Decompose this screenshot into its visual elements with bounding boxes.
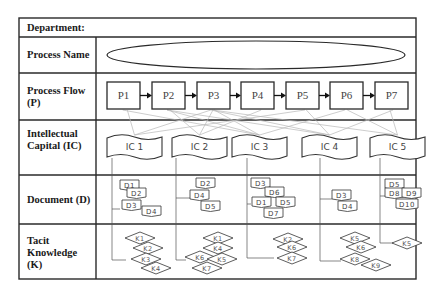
- document-label: D5: [280, 199, 291, 207]
- process-box-p2[interactable]: P2: [152, 82, 185, 109]
- document-d7[interactable]: D7: [264, 208, 283, 219]
- flow-arrow: [274, 93, 286, 99]
- knowledge-k6[interactable]: K6: [346, 241, 376, 253]
- document-d2[interactable]: D2: [127, 188, 146, 199]
- document-label: D6: [269, 189, 280, 197]
- document-label: D5: [389, 181, 400, 189]
- knowledge-k2[interactable]: K2: [133, 242, 163, 254]
- document-label: D3: [255, 180, 266, 188]
- document-label: D2: [200, 180, 211, 188]
- document-d8[interactable]: D8: [385, 188, 404, 199]
- document-label: D4: [342, 203, 353, 211]
- document-d3[interactable]: D3: [122, 200, 141, 211]
- document-d5[interactable]: D5: [276, 197, 295, 208]
- intellectual-capital-row: IC 1IC 2IC 3IC 4IC 5: [107, 135, 425, 160]
- process-box-p4[interactable]: P4: [241, 82, 274, 109]
- ic-label: IC 3: [251, 142, 269, 152]
- document-d10[interactable]: D10: [396, 199, 418, 210]
- knowledge-label: K6: [287, 244, 296, 252]
- document-d3[interactable]: D3: [332, 190, 351, 201]
- ic-label: IC 1: [126, 142, 144, 152]
- ic-ic1[interactable]: IC 1: [107, 135, 162, 160]
- process-name-field[interactable]: [107, 41, 405, 69]
- document-label: D3: [126, 202, 137, 210]
- knowledge-k7[interactable]: K7: [277, 252, 307, 264]
- knowledge-label: K5: [350, 235, 359, 243]
- process-box-p6[interactable]: P6: [330, 82, 363, 109]
- ic-process-link: [211, 110, 330, 135]
- knowledge-k5[interactable]: K5: [392, 237, 422, 249]
- process-label: P6: [341, 89, 353, 101]
- ic-ic4[interactable]: IC 4: [302, 135, 357, 160]
- knowledge-label: K5: [402, 240, 411, 248]
- process-label: P5: [297, 89, 309, 101]
- ic-ic3[interactable]: IC 3: [232, 135, 287, 160]
- process-label: P2: [163, 89, 175, 101]
- document-d4[interactable]: D4: [338, 201, 357, 212]
- document-label: D9: [406, 190, 417, 198]
- ic-process-links: [123, 110, 398, 135]
- knowledge-k4[interactable]: K4: [203, 242, 233, 254]
- knowledge-label: K7: [202, 265, 211, 273]
- ic-process-link: [200, 110, 213, 135]
- knowledge-label: K4: [213, 245, 222, 253]
- ic-process-link: [347, 110, 397, 135]
- document-d6[interactable]: D6: [265, 187, 284, 198]
- ic-process-link: [200, 110, 262, 135]
- flow-arrow: [363, 93, 375, 99]
- row-label-process-flow: Process Flow (P): [27, 85, 85, 109]
- ic-ic5[interactable]: IC 5: [370, 135, 425, 160]
- knowledge-k6[interactable]: K6: [185, 251, 215, 263]
- process-box-p5[interactable]: P5: [286, 82, 319, 109]
- knowledge-label: K7: [287, 255, 296, 263]
- ic-label: IC 5: [389, 142, 407, 152]
- flow-arrow: [319, 93, 330, 99]
- row-label-tacit-knowledge: Tacit Knowledge (K): [27, 235, 77, 271]
- tacit-knowledge-row: K1K2K3K4K1K4K6K5K7K2K6K7K5K6K8K9K5: [112, 232, 422, 274]
- document-d2[interactable]: D2: [196, 178, 215, 189]
- document-d1[interactable]: D1: [252, 197, 271, 208]
- document-label: D7: [268, 210, 279, 218]
- document-label: D8: [389, 190, 400, 198]
- document-row: D1D2D3D4D2D4D5D3D6D1D5D7D3D4D5D8D9D10: [112, 158, 421, 261]
- document-d9[interactable]: D9: [402, 188, 421, 199]
- flow-arrow: [185, 93, 197, 99]
- process-box-p3[interactable]: P3: [197, 82, 230, 109]
- knowledge-label: K6: [195, 254, 204, 262]
- document-label: D1: [256, 199, 267, 207]
- process-label: P1: [118, 89, 130, 101]
- knowledge-k1[interactable]: K1: [125, 232, 155, 244]
- document-label: D2: [131, 190, 142, 198]
- ic-ic2[interactable]: IC 2: [172, 135, 227, 160]
- department-label: Department:: [27, 22, 85, 34]
- document-label: D5: [205, 203, 216, 211]
- process-box-p1[interactable]: P1: [107, 82, 140, 109]
- ic-process-link: [170, 110, 199, 135]
- ic-process-link: [330, 110, 394, 135]
- knowledge-label: K8: [350, 256, 359, 264]
- knowledge-label: K1: [135, 235, 144, 243]
- knowledge-k5[interactable]: K5: [207, 253, 237, 265]
- knowledge-label: K4: [151, 265, 160, 273]
- ic-process-link: [390, 110, 398, 135]
- ic-process-link: [167, 110, 259, 135]
- process-box-p7[interactable]: P7: [375, 82, 408, 109]
- document-d4[interactable]: D4: [142, 206, 161, 217]
- process-label: P4: [252, 89, 264, 101]
- row-label-process-name: Process Name: [27, 49, 90, 61]
- document-label: D4: [194, 192, 205, 200]
- knowledge-k5[interactable]: K5: [340, 232, 370, 244]
- ic-label: IC 2: [191, 142, 209, 152]
- document-d5[interactable]: D5: [201, 201, 220, 212]
- knowledge-label: K5: [217, 256, 226, 264]
- process-label: P7: [386, 89, 398, 101]
- ic-process-link: [306, 110, 329, 135]
- ic-process-link: [260, 110, 345, 135]
- knowledge-k7[interactable]: K7: [192, 262, 222, 274]
- document-label: D4: [146, 208, 157, 216]
- row-label-document: Document (D): [27, 194, 90, 206]
- document-label: D10: [399, 201, 415, 209]
- document-d4[interactable]: D4: [190, 190, 209, 201]
- ic-process-link: [135, 110, 211, 135]
- flow-arrow: [230, 93, 241, 99]
